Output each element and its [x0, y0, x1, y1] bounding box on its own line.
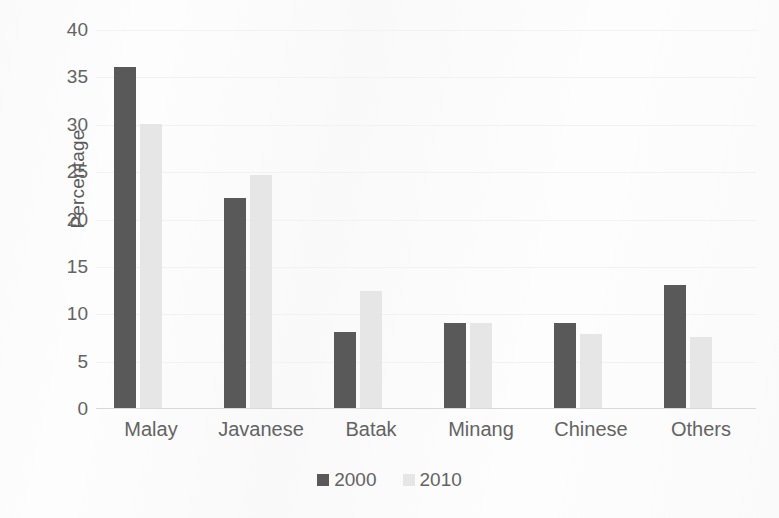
- bar: [250, 175, 272, 408]
- bar-group: [206, 30, 316, 409]
- y-tick-label: 40: [40, 20, 88, 39]
- x-tick-label: Minang: [426, 416, 536, 442]
- bar: [554, 323, 576, 408]
- y-tick-label: 10: [40, 304, 88, 323]
- bar-chart: Percentage 0510152025303540 MalayJavanes…: [0, 0, 779, 518]
- chart-legend: 20002010: [0, 470, 779, 489]
- bar: [114, 67, 136, 408]
- bar: [140, 124, 162, 408]
- legend-label: 2010: [420, 470, 462, 489]
- plot-area: [96, 30, 756, 409]
- bar: [224, 198, 246, 408]
- legend-swatch-icon: [317, 474, 329, 486]
- x-tick-label: Javanese: [206, 416, 316, 442]
- legend-swatch-icon: [403, 474, 415, 486]
- x-axis-tick-labels: MalayJavaneseBatakMinangChineseOthers: [96, 416, 756, 450]
- y-tick-label: 0: [40, 399, 88, 418]
- x-tick-label: Batak: [316, 416, 426, 442]
- bar: [690, 337, 712, 408]
- bar-group: [536, 30, 646, 409]
- y-axis-tick-labels: 0510152025303540: [40, 0, 88, 518]
- y-tick-label: 30: [40, 115, 88, 134]
- y-tick-label: 35: [40, 67, 88, 86]
- bar-group: [96, 30, 206, 409]
- legend-item: 2000: [317, 470, 376, 489]
- legend-item: 2010: [403, 470, 462, 489]
- y-tick-label: 25: [40, 162, 88, 181]
- y-tick-label: 15: [40, 257, 88, 276]
- legend-label: 2000: [334, 470, 376, 489]
- bar-group: [426, 30, 536, 409]
- bar-group: [646, 30, 756, 409]
- bar: [664, 285, 686, 408]
- x-tick-label: Chinese: [536, 416, 646, 442]
- y-tick-label: 5: [40, 352, 88, 371]
- bar-group: [316, 30, 426, 409]
- bar: [360, 291, 382, 408]
- bar: [470, 323, 492, 408]
- bar: [444, 323, 466, 408]
- bar: [580, 334, 602, 408]
- x-tick-label: Others: [646, 416, 756, 442]
- bar: [334, 332, 356, 408]
- y-tick-label: 20: [40, 210, 88, 229]
- x-tick-label: Malay: [96, 416, 206, 442]
